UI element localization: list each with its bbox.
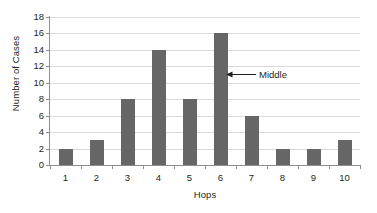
x-axis-tick-mark (329, 165, 330, 169)
x-axis-tick-mark (112, 165, 113, 169)
x-axis-tick-mark (236, 165, 237, 169)
x-axis-tick-label: 6 (205, 171, 236, 184)
x-axis-tick-mark (205, 165, 206, 169)
x-axis-tick-labels: 12345678910 (50, 171, 360, 185)
x-axis-tick-marks (50, 165, 360, 170)
left-arrow-icon (226, 70, 256, 79)
x-axis-tick-label: 7 (236, 171, 267, 184)
x-axis-tick-mark (360, 165, 361, 169)
x-axis-tick-mark (298, 165, 299, 169)
bar (245, 116, 259, 165)
x-axis-tick-label: 5 (174, 171, 205, 184)
plot-area (50, 17, 360, 165)
bar (338, 140, 352, 165)
x-axis-tick-label: 2 (81, 171, 112, 184)
bar (307, 149, 321, 165)
bar (276, 149, 290, 165)
bar (152, 50, 166, 165)
x-axis-tick-label: 9 (298, 171, 329, 184)
y-axis-tick-label: 10 (22, 78, 44, 88)
y-axis-tick-label: 12 (22, 61, 44, 71)
x-axis-tick-label: 10 (329, 171, 360, 184)
middle-annotation: Middle (226, 67, 287, 81)
y-axis-tick-label: 16 (22, 28, 44, 38)
x-axis-tick-label: 8 (267, 171, 298, 184)
y-axis-tick-label: 6 (22, 111, 44, 121)
x-axis-tick-mark (174, 165, 175, 169)
bar (183, 99, 197, 165)
x-axis-tick-label: 3 (112, 171, 143, 184)
x-axis-tick-label: 4 (143, 171, 174, 184)
bar (121, 99, 135, 165)
middle-annotation-label: Middle (259, 68, 287, 81)
x-axis-tick-mark (81, 165, 82, 169)
y-axis-tick-label: 18 (22, 12, 44, 22)
x-axis-tick-label: 1 (50, 171, 81, 184)
bar (90, 140, 104, 165)
y-axis-tick-label: 8 (22, 94, 44, 104)
y-axis-tick-label: 4 (22, 127, 44, 137)
x-axis-tick-mark (50, 165, 51, 169)
y-axis-tick-label: 14 (22, 45, 44, 55)
x-axis-title: Hops (50, 189, 360, 201)
y-axis-tick-label: 0 (22, 160, 44, 170)
y-axis-tick-label: 2 (22, 144, 44, 154)
x-axis-tick-mark (143, 165, 144, 169)
bar (59, 149, 73, 165)
bar (214, 33, 228, 165)
y-axis-tick-labels: 024681012141618 (22, 17, 44, 165)
bar-chart: Number of Cases 024681012141618 12345678… (0, 0, 377, 213)
bar-series (50, 17, 360, 165)
x-axis-tick-mark (267, 165, 268, 169)
